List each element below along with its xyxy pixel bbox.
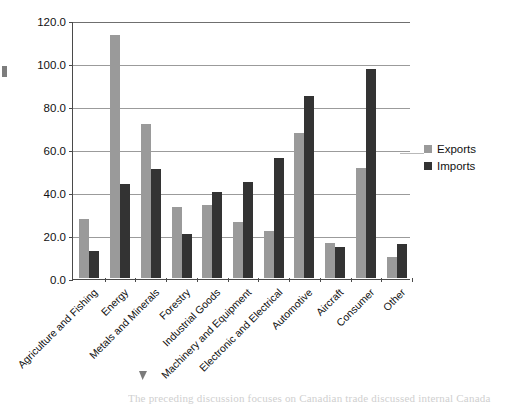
bar-exports xyxy=(79,219,89,278)
y-axis-tick-label: 40.0 xyxy=(44,188,66,200)
y-tick-mark xyxy=(69,151,73,152)
bar-group xyxy=(351,22,382,278)
bar-series-container xyxy=(74,22,410,278)
bar-chart: 0.020.040.060.080.0100.0120.0 Agricultur… xyxy=(0,0,516,410)
legend-swatch-icon xyxy=(424,162,432,170)
x-axis-category-text: Agriculture and Fishing xyxy=(15,286,99,370)
x-axis-labels: Agriculture and FishingEnergyMetals and … xyxy=(0,282,516,378)
bar-group xyxy=(105,22,136,278)
y-tick-mark xyxy=(69,65,73,66)
bar-group xyxy=(228,22,259,278)
x-axis-category-text: Other xyxy=(380,286,407,313)
y-tick-mark xyxy=(69,194,73,195)
y-tick-mark xyxy=(69,237,73,238)
bar-imports xyxy=(366,69,376,278)
bar-exports xyxy=(356,168,366,278)
chart-legend: ExportsImports xyxy=(424,140,510,174)
y-axis-tick-label: 120.0 xyxy=(37,16,66,28)
bar-group xyxy=(166,22,197,278)
legend-label: Exports xyxy=(437,143,476,155)
bar-group xyxy=(74,22,105,278)
y-axis-tick-label: 100.0 xyxy=(37,59,66,71)
legend-item-exports[interactable]: Exports xyxy=(424,140,510,157)
y-axis-tick-label: 80.0 xyxy=(44,102,66,114)
legend-swatch-icon xyxy=(424,145,432,153)
y-tick-mark xyxy=(69,108,73,109)
bar-exports xyxy=(294,133,304,278)
legend-label: Imports xyxy=(437,160,475,172)
bar-imports xyxy=(89,251,99,278)
plot-area: 0.020.040.060.080.0100.0120.0 xyxy=(72,22,410,280)
bar-exports xyxy=(110,35,120,278)
bar-exports xyxy=(141,124,151,278)
page-body-text: The preceding discussion focuses on Cana… xyxy=(128,392,508,404)
legend-leader-line xyxy=(400,153,424,154)
bar-group xyxy=(381,22,412,278)
y-tick-mark xyxy=(69,22,73,23)
y-tick-mark xyxy=(69,280,73,281)
scan-artifact-mark xyxy=(2,66,7,77)
legend-item-imports[interactable]: Imports xyxy=(424,157,510,174)
y-axis-tick-label: 60.0 xyxy=(44,145,66,157)
y-axis-tick-label: 20.0 xyxy=(44,231,66,243)
